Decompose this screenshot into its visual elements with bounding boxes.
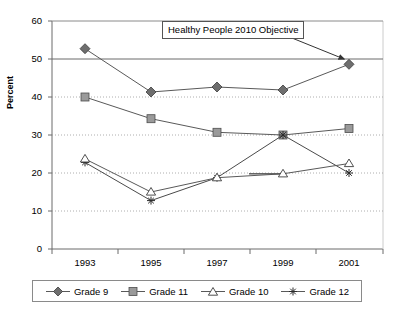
y-tick-marks bbox=[48, 21, 52, 249]
legend-item-grade-11[interactable]: Grade 11 bbox=[120, 286, 188, 297]
y-tick-label-30: 30 bbox=[16, 130, 42, 140]
x-tick-label-1997: 1997 bbox=[197, 258, 237, 268]
legend-label-grade-10: Grade 10 bbox=[229, 286, 269, 297]
y-tick-label-50: 50 bbox=[16, 54, 42, 64]
legend-marker-star-icon bbox=[280, 286, 306, 297]
legend-item-grade-9[interactable]: Grade 9 bbox=[45, 286, 108, 297]
legend-label-grade-11: Grade 11 bbox=[149, 286, 188, 297]
y-tick-label-20: 20 bbox=[16, 168, 42, 178]
y-tick-label-0: 0 bbox=[16, 244, 42, 254]
legend-label-grade-9: Grade 9 bbox=[74, 286, 108, 297]
legend-label-grade-12: Grade 12 bbox=[309, 286, 349, 297]
chart-plot-area: Percent 60 50 40 30 20 10 0 1993 1995 19… bbox=[0, 0, 398, 300]
legend-item-grade-12[interactable]: Grade 12 bbox=[280, 286, 349, 297]
gridlines bbox=[52, 97, 383, 211]
healthy-people-objective-callout: Healthy People 2010 Objective bbox=[162, 21, 304, 39]
x-tick-label-1999: 1999 bbox=[263, 258, 303, 268]
legend-marker-open-triangle-icon bbox=[200, 286, 226, 297]
series-grade-11 bbox=[81, 93, 353, 139]
series-grade-9 bbox=[80, 44, 354, 97]
x-tick-label-2001: 2001 bbox=[329, 258, 369, 268]
y-tick-label-40: 40 bbox=[16, 92, 42, 102]
caption-partial bbox=[0, 318, 398, 328]
y-axis-title: Percent bbox=[5, 93, 15, 109]
x-tick-label-1995: 1995 bbox=[131, 258, 171, 268]
annotation-arrow bbox=[287, 36, 344, 59]
series-grade-12 bbox=[81, 131, 353, 205]
legend-item-grade-10[interactable]: Grade 10 bbox=[200, 286, 269, 297]
legend-marker-filled-diamond-icon bbox=[45, 286, 71, 297]
chart-legend: Grade 9 Grade 11 Grade 10 bbox=[32, 280, 362, 302]
y-tick-label-60: 60 bbox=[16, 16, 42, 26]
x-tick-label-1993: 1993 bbox=[65, 258, 105, 268]
legend-marker-filled-square-icon bbox=[120, 286, 146, 297]
series-grade-10 bbox=[80, 154, 353, 195]
figure-container: Percent 60 50 40 30 20 10 0 1993 1995 19… bbox=[0, 0, 398, 328]
x-tick-marks bbox=[52, 249, 383, 254]
line-chart-svg bbox=[0, 0, 398, 300]
y-tick-label-10: 10 bbox=[16, 206, 42, 216]
